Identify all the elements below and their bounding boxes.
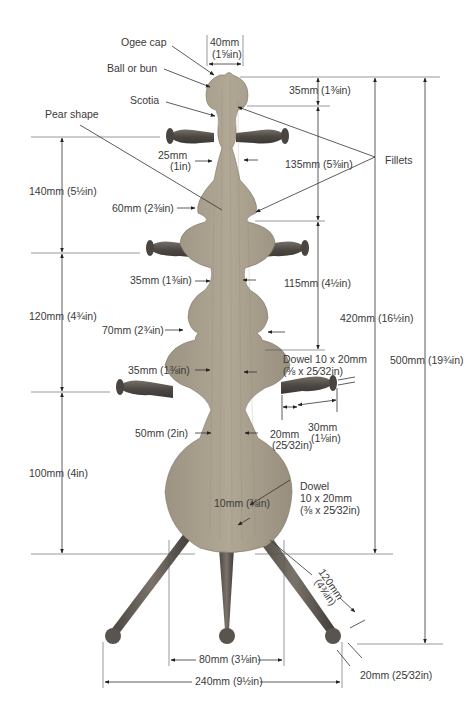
foot-ball-right — [325, 628, 341, 644]
leg-center — [219, 548, 234, 630]
dim-neck-35-a: 35mm (1⅜in) — [130, 274, 192, 286]
peg-low-left — [116, 379, 173, 398]
dim-middle-section: 115mm (4½in) — [284, 277, 351, 289]
dim-overall-height: 500mm (19¾in) — [390, 354, 464, 366]
foot-ball-center — [219, 628, 235, 644]
dim-column-total: 420mm (16½in) — [340, 312, 414, 324]
dim-peg-20-in: (25⁄32in) — [272, 439, 312, 451]
dim-top-width-in: (1⅝in) — [212, 48, 242, 60]
dim-top-width-mm: 40mm — [210, 36, 239, 48]
dim-left-120: 120mm (4¾in) — [29, 310, 97, 322]
dim-peg-dowel-line2: (⅜ x 25⁄32in) — [283, 365, 343, 377]
coat-stand-diagram: Ogee cap Ball or bun Scotia Pear shape F… — [0, 0, 474, 716]
dim-peg-30-in: (1⅛in) — [311, 432, 341, 444]
dim-outer-leg-spread: 240mm (9½in) — [195, 675, 263, 687]
peg-top-left — [166, 128, 214, 144]
dim-neck-25-in: (1in) — [170, 160, 191, 172]
dim-leg-dowel-line1: Dowel — [300, 480, 329, 492]
label-scotia: Scotia — [130, 94, 159, 106]
leg-left — [111, 528, 193, 635]
label-ball-or-bun: Ball or bun — [107, 62, 157, 74]
foot-ball-left — [105, 628, 121, 644]
dim-left-140: 140mm (5½in) — [29, 185, 97, 197]
dim-peg-dowel-line1: Dowel 10 x 20mm — [283, 353, 367, 365]
dim-width-70: 70mm (2¾in) — [102, 324, 164, 336]
dim-leg-dowel-line2: 10 x 20mm — [300, 492, 352, 504]
label-fillets: Fillets — [385, 154, 412, 166]
label-ogee-cap: Ogee cap — [121, 36, 167, 48]
dim-foot-ball: 20mm (25⁄32in) — [360, 669, 432, 681]
dim-upper-section: 135mm (5⅜in) — [285, 158, 353, 170]
dim-cap-height: 35mm (1⅜in) — [289, 84, 351, 96]
dim-width-60: 60mm (2⅜in) — [112, 202, 174, 214]
dim-neck-35-b: 35mm (1⅜in) — [128, 364, 190, 376]
peg-low-right — [281, 375, 337, 394]
dim-left-100: 100mm (4in) — [29, 467, 88, 479]
dim-inner-leg-spread: 80mm (3⅛in) — [199, 653, 261, 665]
label-pear-shape: Pear shape — [45, 108, 99, 120]
dim-leg-dowel-dia: 10mm (⅜in) — [214, 497, 270, 509]
peg-top-right — [236, 128, 289, 144]
dim-neck-50: 50mm (2in) — [135, 427, 188, 439]
turned-column-body — [165, 73, 292, 553]
dim-leg-dowel-line3: (⅜ x 25⁄32in) — [300, 504, 360, 516]
